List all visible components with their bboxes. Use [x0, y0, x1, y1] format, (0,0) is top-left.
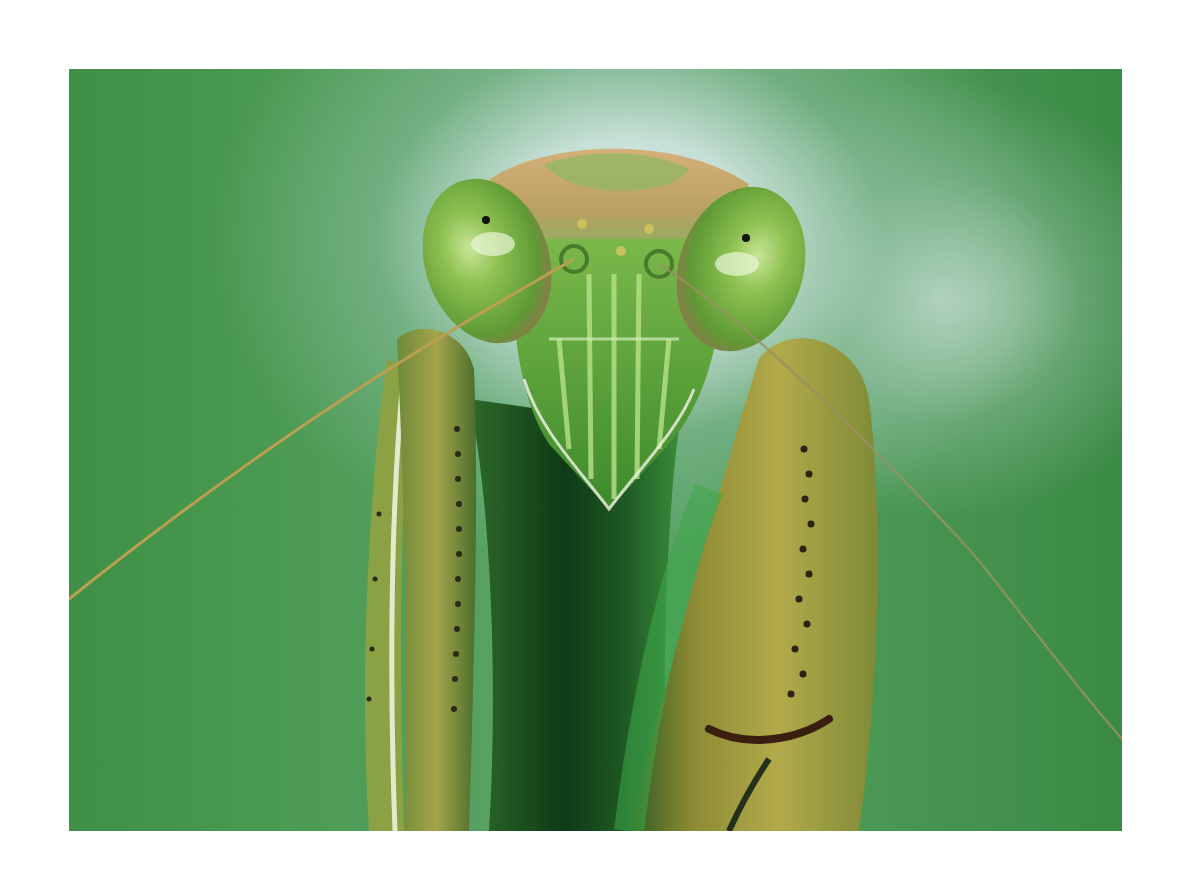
mantis-photo: Close-up of a green praying mantis facin… [69, 69, 1122, 831]
left-foreleg [397, 329, 476, 831]
mantis-illustration [69, 69, 1122, 831]
